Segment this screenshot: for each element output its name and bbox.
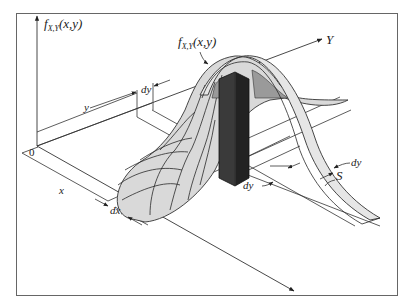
- floor-strip-2: [235, 170, 380, 226]
- dy-strip-label: dy: [351, 156, 362, 168]
- dy-bottom-label: dy: [243, 179, 254, 191]
- dy-arrow-1: [288, 163, 300, 168]
- x-strip-line-1: [22, 153, 108, 201]
- strip-s-label: S: [336, 168, 343, 183]
- joint-pdf-diagram: fX,Y(x,y) fX,Y(x,y) Y 0 x y dx dy dy dy …: [0, 0, 409, 308]
- y-axis-label: Y: [326, 32, 335, 47]
- origin-label: 0: [29, 146, 35, 158]
- dy-top-arrow-right: [154, 80, 170, 86]
- dx-label: dx: [110, 204, 121, 216]
- z-axis-label: fX,Y(x,y): [44, 16, 82, 33]
- surface-label: fX,Y(x,y): [178, 34, 216, 51]
- dy-top-label: dy: [141, 83, 152, 95]
- column-side: [235, 72, 249, 186]
- dy-top-arrow-left: [90, 92, 136, 108]
- surface-label-pointer: [200, 52, 208, 64]
- y-distance-label: y: [83, 101, 89, 113]
- column-front: [219, 72, 235, 186]
- x-distance-label: x: [58, 184, 64, 196]
